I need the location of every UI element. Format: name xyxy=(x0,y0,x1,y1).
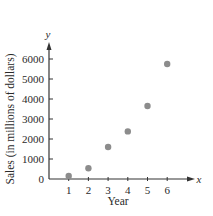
y-tick-label: 3000 xyxy=(22,113,45,125)
y-tick-label: 0 xyxy=(39,173,45,185)
y-tick-label: 5000 xyxy=(22,73,45,85)
y-axis-arrow-icon xyxy=(47,42,52,50)
y-axis-variable: y xyxy=(45,28,51,40)
data-point xyxy=(125,128,131,134)
x-axis-title: Year xyxy=(107,195,128,207)
data-point xyxy=(105,144,111,150)
data-point xyxy=(66,173,72,179)
sales-scatter-chart: 0100020003000400050006000 123456 Sales (… xyxy=(0,0,213,216)
data-point xyxy=(144,103,150,109)
axes xyxy=(47,42,196,182)
x-axis-variable: x xyxy=(196,173,202,185)
y-tick-label: 4000 xyxy=(22,93,45,105)
x-tick-label: 1 xyxy=(66,184,72,196)
x-axis-arrow-icon xyxy=(187,177,195,182)
x-tick-label: 6 xyxy=(164,184,170,196)
y-axis-ticks: 0100020003000400050006000 xyxy=(22,53,53,185)
x-tick-label: 2 xyxy=(86,184,92,196)
data-point xyxy=(85,165,91,171)
x-axis-ticks: 123456 xyxy=(66,177,171,196)
y-tick-label: 2000 xyxy=(22,133,45,145)
y-axis-title: Sales (in millions of dollars) xyxy=(4,53,17,184)
data-points xyxy=(66,61,171,179)
data-point xyxy=(164,61,170,67)
x-tick-label: 5 xyxy=(145,184,151,196)
y-tick-label: 6000 xyxy=(22,53,45,65)
y-tick-label: 1000 xyxy=(22,153,45,165)
